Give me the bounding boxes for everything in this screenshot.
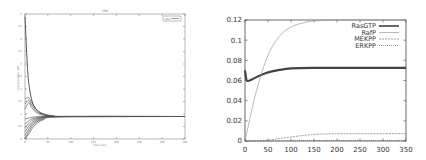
left-chart-panel: 05010015020025030035000.511.522.533.544.… xyxy=(0,0,213,160)
x-tick-label: 350 xyxy=(183,141,188,144)
y-axis: 00.020.040.060.080.10.12 xyxy=(226,16,406,145)
plot-frame xyxy=(25,14,185,139)
y-tick-label: 3.5 xyxy=(18,50,22,53)
y-tick-label: 0.12 xyxy=(226,16,242,24)
y-tick-label: 0.1 xyxy=(231,37,242,45)
x-tick-label: 0 xyxy=(24,141,26,144)
y-tick-label: 4 xyxy=(20,38,22,41)
series-line-traj-8 xyxy=(25,116,185,131)
x-tick-label: 100 xyxy=(284,146,297,154)
plot-frame xyxy=(245,20,406,141)
legend-label: ERK xyxy=(165,18,170,21)
y-tick-label: 5 xyxy=(20,13,22,16)
y-tick-label: 0.06 xyxy=(226,77,242,85)
series-line-traj-7 xyxy=(25,116,185,127)
y-tick-label: 2 xyxy=(20,88,22,91)
y-tick-label: 1.5 xyxy=(18,100,22,103)
y-tick-label: 0 xyxy=(238,137,242,145)
y-tick-label: 4.5 xyxy=(18,25,22,28)
x-tick-label: 100 xyxy=(68,141,73,144)
y-tick-label: 0.5 xyxy=(18,125,22,128)
y-axis-label: Concentration (uM) xyxy=(17,65,20,90)
y-tick-label: 0.08 xyxy=(226,57,242,65)
x-tick-label: 250 xyxy=(353,146,366,154)
x-tick-label: 200 xyxy=(114,141,119,144)
series-line-mekpp xyxy=(245,134,406,141)
y-tick-label: 0.02 xyxy=(226,117,242,125)
legend: ERK xyxy=(163,16,181,21)
x-tick-label: 350 xyxy=(399,146,412,154)
legend-label: ERKPP xyxy=(355,42,376,50)
x-axis-label: Time (sec) xyxy=(93,144,107,147)
left-chart: 05010015020025030035000.511.522.533.544.… xyxy=(0,0,213,160)
x-axis: 050100150200250300350 xyxy=(24,14,188,144)
legend-item-erkpp: ERKPP xyxy=(355,42,399,50)
series-line-traj-4 xyxy=(25,103,185,117)
x-tick-label: 50 xyxy=(46,141,50,144)
x-tick-label: 150 xyxy=(307,146,320,154)
y-tick-label: 0.04 xyxy=(226,97,242,105)
x-tick-label: 250 xyxy=(137,141,142,144)
series-line-traj-10 xyxy=(25,116,185,139)
y-tick-label: 0 xyxy=(20,138,22,141)
chart-title: ERK xyxy=(102,9,109,13)
x-tick-label: 200 xyxy=(330,146,343,154)
series-line-traj-high xyxy=(25,17,185,117)
series-line-rafp xyxy=(245,20,406,141)
series-group xyxy=(25,17,185,140)
series-line-traj-9 xyxy=(25,116,185,135)
legend: RasGTPRafPMEKPPERKPP xyxy=(352,22,399,50)
x-tick-label: 300 xyxy=(160,141,165,144)
x-tick-label: 50 xyxy=(264,146,273,154)
series-group xyxy=(245,20,406,141)
series-line-traj-3 xyxy=(25,100,185,116)
x-tick-label: 300 xyxy=(376,146,389,154)
y-tick-label: 3 xyxy=(20,63,22,66)
right-chart: 05010015020025030035000.020.040.060.080.… xyxy=(213,0,426,160)
series-line-rasgtp xyxy=(245,68,406,81)
series-line-traj-2 xyxy=(25,98,185,117)
x-tick-label: 0 xyxy=(243,146,247,154)
right-chart-panel: 05010015020025030035000.020.040.060.080.… xyxy=(213,0,426,160)
y-tick-label: 1 xyxy=(20,113,22,116)
series-line-traj-11 xyxy=(25,117,185,140)
y-axis: 00.511.522.533.544.55 xyxy=(18,13,185,141)
